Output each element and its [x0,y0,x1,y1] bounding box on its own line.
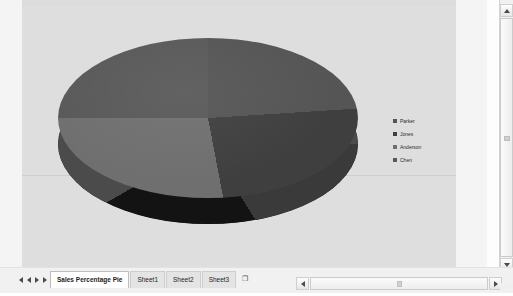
tab-navigation[interactable] [17,274,49,285]
legend-item[interactable]: Chen [393,156,445,164]
vertical-scroll-thumb[interactable] [500,18,513,257]
first-sheet-button[interactable] [17,274,25,285]
sheet-tab-sheet3[interactable]: Sheet3 [202,271,237,288]
arrow-prev-icon [27,277,31,283]
arrow-down-icon [504,263,510,267]
sheet-tab-bar: Sales Percentage Pie Sheet1 Sheet2 Sheet… [0,267,513,296]
scroll-left-button[interactable] [296,277,309,290]
arrow-first-icon [19,277,23,283]
print-page: Parker Jones Anderson Chen [22,0,456,268]
legend-item[interactable]: Parker [393,117,445,125]
pie-slices[interactable] [58,38,358,198]
legend-swatch-icon [393,158,397,162]
arrow-last-icon [43,277,47,283]
horizontal-scroll-track[interactable] [310,277,488,290]
last-sheet-button[interactable] [41,274,49,285]
legend-item[interactable]: Anderson [393,143,445,151]
scroll-grip-icon [397,281,402,287]
legend-swatch-icon [393,119,397,123]
horizontal-scroll-thumb[interactable] [310,277,488,290]
chart-workspace: Parker Jones Anderson Chen [0,0,487,268]
legend-swatch-icon [393,132,397,136]
vertical-scrollbar[interactable] [499,0,513,281]
legend-swatch-icon [393,145,397,149]
prev-sheet-button[interactable] [25,274,33,285]
scroll-grip-icon [504,136,510,141]
next-sheet-button[interactable] [33,274,41,285]
spreadsheet-chart-window: Parker Jones Anderson Chen [0,0,513,296]
legend-item[interactable]: Jones [393,130,445,138]
chart-object[interactable]: Parker Jones Anderson Chen [22,0,456,268]
new-sheet-icon[interactable]: ❐ [237,271,253,286]
scroll-up-button[interactable] [500,4,513,17]
legend-label: Anderson [400,144,421,150]
horizontal-scrollbar[interactable] [296,277,502,290]
sheet-tab-sales-percentage-pie[interactable]: Sales Percentage Pie [50,271,129,288]
arrow-up-icon [504,9,510,13]
chart-legend: Parker Jones Anderson Chen [393,117,445,169]
arrow-next-icon [35,277,39,283]
legend-label: Chen [400,157,412,163]
pie-chart-3d[interactable] [58,38,358,228]
legend-label: Jones [400,131,413,137]
arrow-left-icon [301,281,305,287]
arrow-right-icon [494,281,498,287]
sheet-tab-sheet2[interactable]: Sheet2 [166,271,201,288]
legend-label: Parker [400,118,415,124]
sheet-tabs[interactable]: Sales Percentage Pie Sheet1 Sheet2 Sheet… [50,271,253,288]
vertical-scroll-track[interactable] [500,18,513,257]
sheet-tab-sheet1[interactable]: Sheet1 [130,271,165,288]
